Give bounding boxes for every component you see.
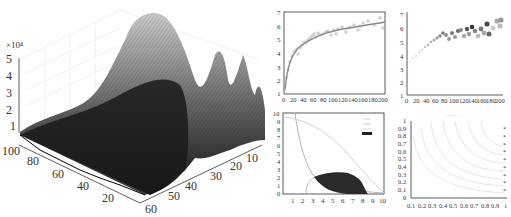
svg-text:10: 10 — [273, 110, 280, 117]
svg-text:40: 40 — [77, 179, 89, 193]
svg-text:60: 60 — [310, 96, 317, 103]
small-arc — [306, 177, 314, 194]
scatter-graded-chart: 7 6 5 4 3 2 1 0 20 40 60 80 100 120 140 … — [393, 0, 511, 105]
svg-text:20: 20 — [413, 97, 420, 104]
edge-markers: *** *** *** — [503, 126, 506, 194]
svg-text:*: * — [503, 180, 506, 186]
svg-text:0.3: 0.3 — [398, 171, 406, 178]
svg-text:0.8: 0.8 — [398, 132, 406, 139]
x-ticks: 0.1 0.2 0.3 0.4 0.5 0.6 0.7 0.8 0.9 1 — [407, 202, 507, 209]
svg-text:2: 2 — [301, 197, 305, 205]
svg-text:0.4: 0.4 — [398, 163, 407, 170]
svg-text:2: 2 — [400, 79, 404, 87]
surface-3d-chart: ×10⁴ 5 4 3 2 1 100 80 60 40 20 10 20 30 … — [0, 0, 265, 217]
svg-text:180: 180 — [368, 96, 378, 103]
svg-text:5: 5 — [277, 150, 280, 157]
svg-text:8: 8 — [277, 126, 280, 133]
svg-text:3: 3 — [277, 166, 280, 173]
svg-text:40: 40 — [300, 96, 307, 103]
svg-text:4: 4 — [400, 53, 404, 61]
svg-text:0.5: 0.5 — [449, 202, 457, 209]
fit-curve — [285, 22, 385, 90]
svg-text:2: 2 — [277, 174, 280, 181]
svg-text:4: 4 — [277, 158, 281, 165]
svg-text:60: 60 — [432, 97, 439, 104]
svg-text:3: 3 — [400, 66, 404, 74]
svg-text:80: 80 — [320, 96, 327, 103]
svg-text:*: * — [503, 165, 506, 171]
svg-text:100: 100 — [328, 96, 338, 103]
svg-text:4: 4 — [6, 69, 12, 83]
svg-text:3: 3 — [277, 64, 281, 72]
svg-text:4: 4 — [277, 50, 281, 58]
svg-text:0.8: 0.8 — [481, 202, 489, 209]
svg-text:0: 0 — [405, 97, 408, 104]
svg-text:140: 140 — [348, 96, 358, 103]
x-ticks: 1 2 3 4 5 6 7 8 9 10 — [291, 197, 387, 205]
svg-text:*: * — [503, 149, 506, 155]
svg-text:3: 3 — [311, 197, 315, 205]
svg-text:6: 6 — [341, 197, 345, 205]
svg-text:50: 50 — [168, 189, 180, 203]
y-ticks: 7 6 5 4 3 2 1 — [277, 9, 281, 98]
region-plot-chart: 10 9 8 7 6 5 4 3 2 1 0 1 2 3 4 5 6 7 8 9… — [268, 105, 393, 217]
svg-text:200: 200 — [378, 96, 388, 103]
z-ticks: ×10⁴ 5 4 3 2 1 — [6, 40, 23, 133]
iso-curves — [413, 121, 505, 193]
svg-text:7: 7 — [351, 197, 355, 205]
svg-text:0.9: 0.9 — [398, 125, 406, 132]
data-points — [285, 17, 384, 79]
svg-text:9: 9 — [277, 118, 280, 125]
svg-text:1: 1 — [10, 119, 16, 133]
svg-text:3: 3 — [6, 86, 12, 100]
svg-text:80: 80 — [441, 97, 448, 104]
svg-text:4: 4 — [321, 197, 325, 205]
svg-text:7: 7 — [400, 11, 404, 19]
svg-text:*: * — [503, 188, 506, 194]
svg-text:0.5: 0.5 — [398, 155, 406, 162]
svg-text:80: 80 — [27, 154, 39, 168]
x-ticks: 0 20 40 60 80 100 120 140 160 180 200 — [282, 96, 388, 103]
svg-text:1: 1 — [403, 117, 406, 124]
svg-text:120: 120 — [338, 96, 348, 103]
svg-text:160: 160 — [358, 96, 368, 103]
svg-text:0.1: 0.1 — [407, 202, 415, 209]
svg-text:*: * — [503, 157, 506, 163]
svg-text:1: 1 — [400, 92, 404, 100]
svg-text:9: 9 — [371, 197, 375, 205]
svg-text:*: * — [503, 126, 506, 132]
svg-text:0.4: 0.4 — [439, 202, 448, 209]
svg-text:0.3: 0.3 — [428, 202, 436, 209]
scatter-fit-chart: 7 6 5 4 3 2 1 0 20 40 60 80 100 120 140 … — [268, 0, 393, 105]
svg-text:6: 6 — [277, 23, 281, 31]
svg-text:7: 7 — [277, 134, 281, 141]
svg-text:*: * — [503, 134, 506, 140]
svg-text:8: 8 — [361, 197, 365, 205]
svg-text:0: 0 — [403, 194, 406, 201]
svg-text:5: 5 — [6, 52, 12, 66]
svg-text:7: 7 — [277, 9, 281, 17]
svg-text:60: 60 — [52, 167, 64, 181]
plot-title: · · · · · · · — [445, 113, 460, 118]
svg-text:0: 0 — [277, 190, 280, 197]
svg-text:20: 20 — [102, 191, 114, 205]
svg-text:0.1: 0.1 — [398, 186, 406, 193]
svg-text:40: 40 — [185, 179, 197, 193]
svg-text:0.6: 0.6 — [460, 202, 469, 209]
filled-region — [314, 172, 368, 194]
svg-text:*: * — [503, 142, 506, 148]
svg-text:0.2: 0.2 — [398, 178, 406, 185]
contour-field-chart: · · · · · · · 1 0.9 0.8 0.7 0.6 0.5 0.4 … — [393, 105, 511, 217]
svg-text:6: 6 — [400, 25, 404, 33]
svg-text:1: 1 — [277, 90, 281, 98]
svg-text:0.6: 0.6 — [398, 148, 407, 155]
svg-text:5: 5 — [277, 36, 281, 44]
svg-text:100: 100 — [2, 144, 20, 158]
svg-text:5: 5 — [331, 197, 335, 205]
svg-text:×10⁴: ×10⁴ — [6, 40, 23, 50]
svg-text:10: 10 — [246, 151, 258, 165]
svg-text:20: 20 — [290, 96, 297, 103]
y-ticks: 10 9 8 7 6 5 4 3 2 1 0 — [273, 110, 281, 197]
y-ticks: 7 6 5 4 3 2 1 — [400, 11, 404, 100]
svg-text:1: 1 — [504, 202, 507, 209]
